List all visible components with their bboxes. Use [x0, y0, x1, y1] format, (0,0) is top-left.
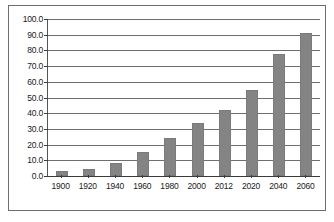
- x-axis-tick-text: 1920: [74, 181, 101, 191]
- x-axis-tick-text: 2040: [265, 181, 292, 191]
- x-axis-tick-label: 2040: [265, 178, 292, 194]
- x-axis-tick-label: 1920: [74, 178, 101, 194]
- bar-slot: [102, 19, 129, 176]
- bar[interactable]: [246, 90, 258, 176]
- bar-slot: [184, 19, 211, 176]
- bar[interactable]: [273, 54, 285, 176]
- y-axis-tick-label: 60.0: [27, 77, 43, 87]
- bar[interactable]: [110, 163, 122, 176]
- x-axis-tick-label: 1900: [47, 178, 74, 194]
- x-axis-tick: [88, 175, 89, 178]
- y-axis-tick-label: 80.0: [27, 45, 43, 55]
- x-axis-tick-text: 2060: [292, 181, 319, 191]
- x-axis-tick-label: 1980: [156, 178, 183, 194]
- bar[interactable]: [83, 169, 95, 176]
- y-axis-tick-label: 10.0: [27, 155, 43, 165]
- x-axis-tick-label: 1940: [101, 178, 128, 194]
- bar-slot: [48, 19, 75, 176]
- y-axis-tick-label: 50.0: [27, 93, 43, 103]
- plot-area: 100.090.080.070.060.050.040.030.020.010.…: [47, 19, 320, 177]
- x-axis-tick-text: 2020: [237, 181, 264, 191]
- bar[interactable]: [219, 110, 231, 176]
- x-axis-tick-text: 1960: [129, 181, 156, 191]
- x-axis-tick-text: 1940: [101, 181, 128, 191]
- x-axis-tick-text: 1980: [156, 181, 183, 191]
- x-axis-tick: [197, 175, 198, 178]
- bar-slot: [211, 19, 238, 176]
- x-axis-tick: [224, 175, 225, 178]
- bar-slot: [266, 19, 293, 176]
- y-axis-tick-label: 20.0: [27, 140, 43, 150]
- x-axis-tick: [142, 175, 143, 178]
- bar-series: [48, 19, 320, 176]
- bar[interactable]: [164, 138, 176, 176]
- y-axis-tick-label: 90.0: [27, 30, 43, 40]
- bar[interactable]: [137, 152, 149, 176]
- x-axis-tick: [305, 175, 306, 178]
- x-axis-tick: [115, 175, 116, 178]
- x-axis-tick-label: 2020: [237, 178, 264, 194]
- x-axis-tick: [278, 175, 279, 178]
- x-axis-tick-text: 1900: [47, 181, 74, 191]
- y-axis-tick-label: 100.0: [23, 14, 43, 24]
- y-axis-tick-label: 40.0: [27, 108, 43, 118]
- x-axis-tick: [61, 175, 62, 178]
- bar-slot: [238, 19, 265, 176]
- x-axis-tick-label: 2060: [292, 178, 319, 194]
- chart-frame: 100.090.080.070.060.050.040.030.020.010.…: [8, 5, 326, 211]
- bar[interactable]: [300, 33, 312, 176]
- bar[interactable]: [192, 123, 204, 176]
- x-axis-tick-text: 2000: [183, 181, 210, 191]
- bar-slot: [157, 19, 184, 176]
- x-axis: 1900192019401960198020002012202020402060: [47, 178, 319, 194]
- y-axis-tick-label: 0.0: [32, 171, 43, 181]
- bar-slot: [293, 19, 320, 176]
- bar-slot: [75, 19, 102, 176]
- x-axis-tick-label: 1960: [129, 178, 156, 194]
- x-axis-tick-label: 2012: [210, 178, 237, 194]
- x-axis-tick: [251, 175, 252, 178]
- x-axis-tick: [169, 175, 170, 178]
- y-axis-tick-label: 30.0: [27, 124, 43, 134]
- x-axis-tick-text: 2012: [210, 181, 237, 191]
- bar[interactable]: [56, 171, 68, 176]
- x-axis-tick-label: 2000: [183, 178, 210, 194]
- y-axis-tick: [44, 176, 48, 177]
- y-axis-tick-label: 70.0: [27, 61, 43, 71]
- bar-slot: [130, 19, 157, 176]
